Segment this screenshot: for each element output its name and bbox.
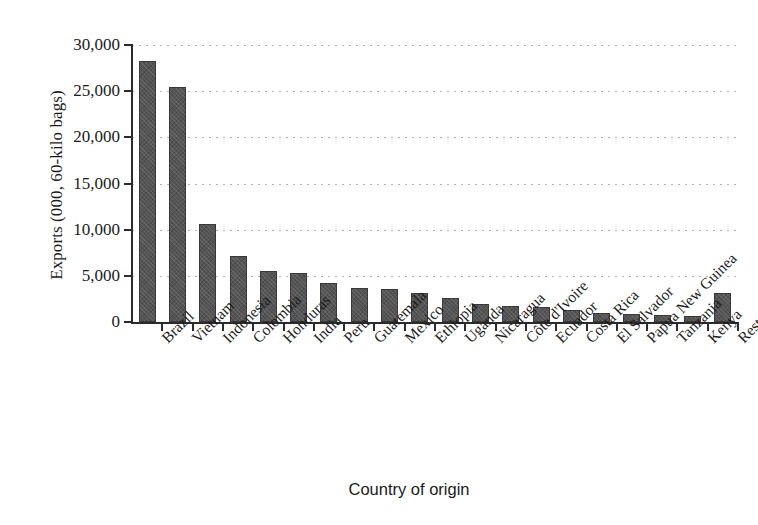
x-axis-category-label: Nicaragua xyxy=(491,334,504,347)
x-tick-mark xyxy=(464,322,466,331)
x-tick-mark xyxy=(222,322,224,331)
x-tick-mark xyxy=(373,322,375,331)
x-axis-category-label: Brazil xyxy=(158,334,171,347)
x-axis-title: Country of origin xyxy=(0,480,758,499)
x-axis-category-label: Rest of world xyxy=(734,334,747,347)
y-tick-label: 10,000 xyxy=(73,220,120,240)
x-tick-mark xyxy=(646,322,648,331)
x-axis-category-label: Vietnam xyxy=(188,334,201,347)
x-axis-category-label: Kenya xyxy=(704,334,717,347)
x-axis-category-label: India xyxy=(310,334,323,347)
x-tick-mark xyxy=(555,322,557,331)
x-axis-category-label: Colombia xyxy=(249,334,262,347)
x-axis-category-label: Ecuador xyxy=(552,334,565,347)
x-axis-category-label: Costa Rica xyxy=(582,334,595,347)
x-axis-category-label: Honduras xyxy=(279,334,292,347)
x-tick-mark xyxy=(283,322,285,331)
x-tick-mark xyxy=(343,322,345,331)
bar-vietnam[interactable] xyxy=(169,87,186,322)
x-axis-category-label: Indonesia xyxy=(219,334,232,347)
bars-layer xyxy=(132,45,738,322)
x-tick-mark xyxy=(161,322,163,331)
x-axis-category-label: Papua New Guinea xyxy=(643,334,656,347)
y-tick-label: 15,000 xyxy=(73,174,120,194)
x-tick-mark xyxy=(434,322,436,331)
x-tick-mark xyxy=(525,322,527,331)
x-axis-category-label: Ethiopia xyxy=(431,334,444,347)
x-axis-category-label: Tanzania xyxy=(673,334,686,347)
bar-chart: Exports (000, 60-kilo bags) 30,00025,000… xyxy=(0,0,758,525)
x-axis-category-label: Peru xyxy=(340,334,353,347)
x-tick-mark xyxy=(252,322,254,331)
y-axis-title: Exports (000, 60-kilo bags) xyxy=(47,35,67,335)
x-axis-category-label: Uganda xyxy=(461,334,474,347)
x-axis-category-label: Côte d'Ivoire xyxy=(522,334,535,347)
x-tick-mark xyxy=(192,322,194,331)
bar-brazil[interactable] xyxy=(139,61,156,322)
x-tick-mark xyxy=(586,322,588,331)
x-axis-category-label: El Salvador xyxy=(613,334,626,347)
y-tick-label: 30,000 xyxy=(73,35,120,55)
x-tick-mark xyxy=(404,322,406,331)
y-tick-label: 20,000 xyxy=(73,127,120,147)
x-tick-mark xyxy=(495,322,497,331)
y-tick-label: 0 xyxy=(112,312,121,332)
x-tick-mark xyxy=(707,322,709,331)
x-axis-category-label: Guatemala xyxy=(370,334,383,347)
x-tick-mark xyxy=(616,322,618,331)
y-tick-label: 5,000 xyxy=(82,266,120,286)
x-tick-mark xyxy=(737,322,739,331)
x-tick-mark xyxy=(676,322,678,331)
x-axis-category-label: Mexico xyxy=(401,334,414,347)
x-tick-mark xyxy=(313,322,315,331)
y-tick-label: 25,000 xyxy=(73,81,120,101)
